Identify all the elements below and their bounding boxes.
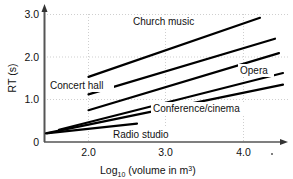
x-tick-label-2: 2.0	[81, 146, 96, 158]
x-axis-title-rest: (volume in m	[125, 164, 188, 176]
series-label-radio-studio-group: Radio studio	[111, 128, 179, 141]
x-axis-title-log: Log	[100, 164, 118, 176]
series-label-concert-hall-group: Concert hall	[48, 79, 114, 92]
y-axis-title: RT (s)	[6, 64, 18, 93]
x-tick-label-3: 3.0	[158, 146, 173, 158]
series-label-opera[interactable]: Opera	[240, 65, 268, 76]
reverberation-time-chart: 3.0 2.0 1.0 0 2.0 3.0 4.0 RT (s) Log10 (…	[0, 0, 293, 179]
series-label-radio-studio[interactable]: Radio studio	[113, 129, 169, 140]
x-axis-title-close: )	[192, 164, 196, 176]
series-label-church-music-group: Church music	[131, 15, 203, 28]
series-label-conference-cinema-group: Conference/cinema	[151, 102, 255, 115]
x-axis-end-dot	[271, 153, 273, 155]
chart-svg: 3.0 2.0 1.0 0 2.0 3.0 4.0 RT (s) Log10 (…	[0, 0, 293, 179]
y-tick-label-3: 3.0	[24, 8, 39, 20]
series-label-conference-cinema[interactable]: Conference/cinema	[153, 103, 240, 114]
series-label-church-music[interactable]: Church music	[133, 16, 194, 27]
y-tick-label-0: 0	[33, 136, 39, 148]
y-tick-label-2: 2.0	[24, 51, 39, 63]
svg-text:Log10 (volume in m3): Log10 (volume in m3)	[100, 164, 196, 178]
series-label-opera-group: Opera	[238, 64, 274, 77]
x-tick-label-4: 4.0	[236, 146, 251, 158]
series-label-concert-hall[interactable]: Concert hall	[50, 80, 103, 91]
y-tick-label-1: 1.0	[24, 93, 39, 105]
x-axis-title: Log10 (volume in m3)	[100, 164, 196, 178]
x-axis-title-subscript: 10	[118, 171, 126, 178]
